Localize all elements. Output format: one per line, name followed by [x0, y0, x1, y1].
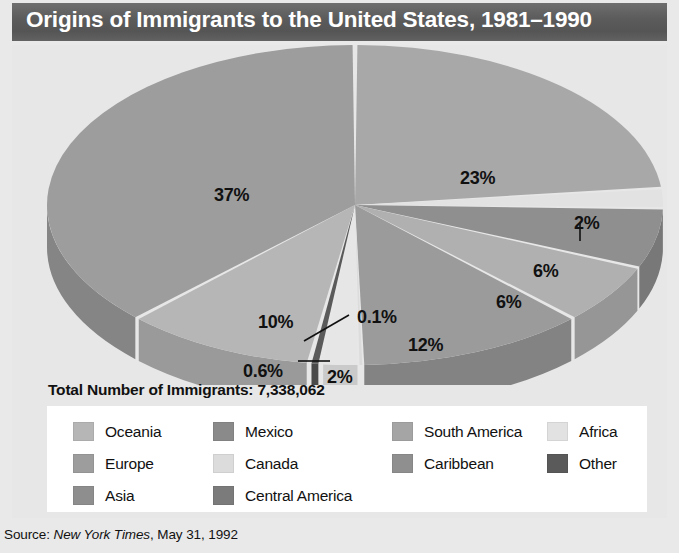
pie-chart-svg: [12, 45, 667, 385]
legend-item-europe[interactable]: Europe: [73, 454, 154, 473]
source-publication: New York Times: [53, 527, 150, 542]
legend-swatch: [547, 422, 568, 441]
legend-label: Mexico: [245, 423, 293, 441]
legend-swatch: [392, 454, 413, 473]
legend-label: Africa: [579, 423, 617, 441]
legend-swatch: [213, 422, 234, 441]
legend-swatch: [73, 454, 94, 473]
pie-top-faces: [47, 45, 663, 365]
legend-label: Canada: [245, 455, 298, 473]
legend-label: Asia: [105, 487, 134, 505]
legend-swatch: [392, 422, 413, 441]
source-note: Source: New York Times, May 31, 1992: [4, 527, 238, 542]
legend-item-other[interactable]: Other: [547, 454, 617, 473]
legend-swatch: [213, 454, 234, 473]
legend-label: Oceania: [105, 423, 161, 441]
legend-item-oceania[interactable]: Oceania: [73, 422, 161, 441]
legend-label: Central America: [245, 487, 352, 505]
source-suffix: , May 31, 1992: [150, 527, 238, 542]
legend-label: Europe: [105, 455, 154, 473]
pie-percent-label: 23%: [460, 168, 495, 189]
legend-swatch: [73, 486, 94, 505]
legend-item-mexico[interactable]: Mexico: [213, 422, 293, 441]
total-immigrants-label: Total Number of Immigrants: 7,338,062: [48, 381, 325, 399]
legend-item-south-america[interactable]: South America: [392, 422, 522, 441]
legend-swatch: [547, 454, 568, 473]
pie-percent-label: 6%: [533, 261, 558, 282]
pie-chart: 37%23%2%6%6%12%0.1%2%0.6%10%: [12, 45, 667, 385]
legend-item-canada[interactable]: Canada: [213, 454, 298, 473]
page-title: Origins of Immigrants to the United Stat…: [26, 7, 592, 33]
chart-panel: 37%23%2%6%6%12%0.1%2%0.6%10% Total Numbe…: [12, 45, 667, 518]
legend-item-africa[interactable]: Africa: [547, 422, 617, 441]
legend-label: Other: [579, 455, 617, 473]
pie-percent-label: 0.1%: [357, 307, 397, 328]
legend-label: Caribbean: [424, 455, 494, 473]
legend-item-asia[interactable]: Asia: [73, 486, 134, 505]
pie-slice-asia: [355, 45, 661, 205]
chart-title-bar: Origins of Immigrants to the United Stat…: [12, 3, 667, 41]
legend-item-central-america[interactable]: Central America: [213, 486, 352, 505]
pie-percent-label: 10%: [258, 312, 293, 333]
legend-swatch: [213, 486, 234, 505]
source-prefix: Source:: [4, 527, 53, 542]
pie-percent-label: 2%: [574, 213, 599, 234]
chart-legend: OceaniaEuropeAsiaMexicoCanadaCentral Ame…: [47, 406, 647, 512]
legend-item-caribbean[interactable]: Caribbean: [392, 454, 494, 473]
pie-percent-label: 2%: [327, 367, 352, 388]
pie-percent-label: 6%: [496, 292, 521, 313]
legend-label: South America: [424, 423, 522, 441]
legend-swatch: [73, 422, 94, 441]
pie-percent-label: 37%: [214, 185, 249, 206]
pie-percent-label: 0.6%: [243, 361, 283, 382]
pie-percent-label: 12%: [408, 335, 443, 356]
chart-page: Origins of Immigrants to the United Stat…: [0, 0, 679, 553]
